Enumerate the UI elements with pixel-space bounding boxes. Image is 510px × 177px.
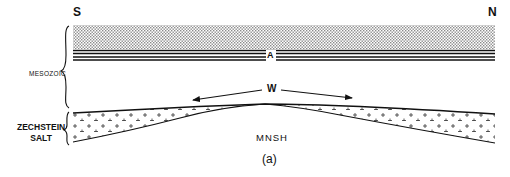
cross-section-drawing (0, 0, 510, 177)
label-zechstein-salt: ZECHSTEIN SALT (17, 122, 65, 144)
label-mnsh: MNSH (256, 133, 288, 143)
arrow-right (281, 90, 352, 98)
arrow-left (193, 90, 262, 100)
label-bed-a: A (267, 51, 274, 60)
label-salt: SALT (17, 133, 65, 144)
figure-tag: (a) (262, 153, 277, 165)
label-zechstein: ZECHSTEIN (17, 122, 65, 133)
thin-beds (73, 51, 495, 61)
stippled-band (73, 25, 495, 49)
label-withdrawal: W (267, 84, 276, 94)
label-south: S (73, 6, 81, 18)
label-north: N (488, 6, 497, 18)
label-mesozoic: MESOZOIC (29, 71, 66, 78)
mesozoic-brace (61, 26, 69, 108)
